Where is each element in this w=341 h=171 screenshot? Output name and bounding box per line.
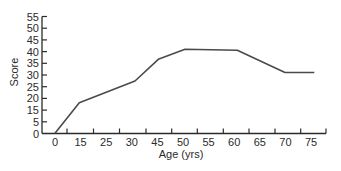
line-chart: 05152025303540455055 0152530455055606570… <box>0 0 341 171</box>
x-tick-label: 75 <box>305 136 317 148</box>
x-tick-label: 65 <box>254 136 266 148</box>
x-tick-label: 55 <box>202 136 214 148</box>
x-tick-label: 30 <box>126 136 138 148</box>
x-tick-label: 50 <box>177 136 189 148</box>
x-tick-label: 25 <box>100 136 112 148</box>
y-axis-title: Score <box>8 58 20 87</box>
x-tick-label: 45 <box>151 136 163 148</box>
x-axis: 015253045505560657075 <box>42 129 326 148</box>
y-tick-label: 0 <box>33 128 39 140</box>
x-tick-label: 70 <box>279 136 291 148</box>
y-tick-label: 40 <box>27 46 39 58</box>
y-tick-label: 30 <box>27 69 39 81</box>
y-tick-label: 25 <box>27 81 39 93</box>
x-axis-title: Age (yrs) <box>159 148 204 160</box>
y-tick-label: 55 <box>27 11 39 23</box>
score-line <box>55 49 314 133</box>
x-tick-label: 0 <box>52 136 58 148</box>
data-series <box>55 49 314 133</box>
y-tick-label: 45 <box>27 34 39 46</box>
x-tick-label: 60 <box>228 136 240 148</box>
y-tick-label: 15 <box>27 104 39 116</box>
y-tick-label: 5 <box>33 116 39 128</box>
y-tick-label: 20 <box>27 92 39 104</box>
y-tick-label: 50 <box>27 22 39 34</box>
y-axis: 05152025303540455055 <box>27 11 47 140</box>
y-tick-label: 35 <box>27 57 39 69</box>
x-tick-label: 15 <box>74 136 86 148</box>
